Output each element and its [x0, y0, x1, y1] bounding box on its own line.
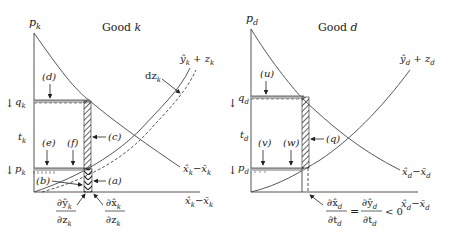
supply-curve-label-d: ŷd + zd	[399, 53, 435, 67]
svg-text:∂td: ∂td	[363, 214, 377, 228]
area-d-label: (d)	[42, 71, 56, 82]
svg-text:∂zk: ∂zk	[57, 214, 72, 228]
qd-label: qd	[238, 92, 249, 106]
title-good-d: Good d	[318, 21, 358, 34]
panel-good-d: pd Good d x̂d−x̄d ŷd + zd ↓ qd td ↓ pd (…	[228, 12, 435, 228]
area-u-label: (u)	[260, 68, 274, 79]
panel-good-k: pk Good k x̂k−x̄k ŷk + zk dzk ↓ qk tk ↓ …	[5, 16, 214, 228]
area-c-hatch	[84, 101, 91, 169]
svg-text:∂td: ∂td	[328, 214, 342, 228]
qd-band	[251, 96, 304, 99]
demand-curve-label-d: x̂d−x̄d	[402, 166, 431, 180]
area-b-label: (b)	[36, 175, 50, 186]
qk-label: qk	[15, 96, 26, 110]
svg-text:∂x̂d: ∂x̂d	[327, 197, 343, 211]
tk-label: tk	[18, 131, 26, 145]
y-axis-label-d: pd	[246, 12, 258, 27]
demand-curve-d	[251, 29, 400, 170]
tax-incidence-diagram: pk Good k x̂k−x̄k ŷk + zk dzk ↓ qk tk ↓ …	[0, 0, 452, 239]
qk-band	[34, 100, 90, 103]
qk-arrow: ↓	[5, 97, 14, 110]
svg-text:=: =	[350, 205, 359, 218]
pd-label: pd	[238, 162, 249, 176]
pd-arrow: ↓	[228, 164, 237, 177]
area-q-label: (q)	[326, 133, 340, 144]
svg-text:∂ŷd: ∂ŷd	[362, 197, 378, 211]
area-c-label: (c)	[108, 131, 122, 142]
supply-curve-k	[34, 68, 190, 192]
area-v-ticks	[255, 171, 265, 173]
derivative-condition-d: ∂x̂d ∂td = ∂ŷd ∂td < 0	[310, 195, 403, 228]
supply-curve-d	[251, 70, 410, 192]
area-a-label: (a)	[108, 175, 122, 186]
pk-band	[34, 168, 90, 171]
area-v-label: (v)	[258, 137, 272, 148]
area-f-label: (f)	[67, 137, 79, 148]
area-w-label: (w)	[283, 137, 299, 148]
title-good-k: Good k	[102, 21, 142, 34]
svg-text:< 0: < 0	[385, 206, 403, 217]
demand-curve-label-k: x̂k−x̄k	[183, 163, 211, 177]
area-a-hatch	[84, 169, 92, 192]
x-axis-label-d: x̂d−x̄d	[401, 198, 430, 212]
area-e-ticks	[34, 171, 54, 174]
svg-text:∂x̂k: ∂x̂k	[106, 197, 121, 211]
x-axis-label-k: x̂k−x̄k	[185, 195, 213, 209]
td-label: td	[240, 129, 249, 143]
svg-text:∂ŷk: ∂ŷk	[57, 197, 72, 211]
area-q-hatch	[302, 97, 309, 168]
pk-label: pk	[15, 163, 26, 177]
pk-arrow: ↓	[5, 164, 14, 177]
derivative-dx-dz-k: ∂x̂k ∂zk	[94, 194, 125, 228]
pd-band	[251, 168, 304, 171]
shift-label-k: dzk	[145, 70, 161, 84]
derivative-dy-dz-k: ∂ŷk ∂zk	[56, 194, 85, 228]
area-e-label: (e)	[42, 137, 56, 148]
qd-arrow: ↓	[228, 97, 237, 110]
shift-arrow-k	[162, 79, 180, 93]
y-axis-label-k: pk	[29, 16, 41, 31]
svg-text:∂zk: ∂zk	[106, 214, 121, 228]
supply-curve-label-k: ŷk + zk	[179, 53, 214, 67]
